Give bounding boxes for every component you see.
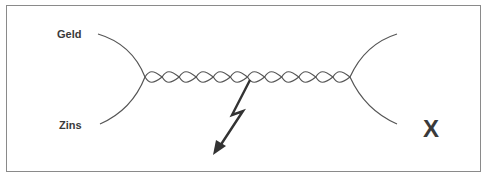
left-fork-lower-strand bbox=[100, 77, 145, 124]
label-zins: Zins bbox=[59, 119, 82, 131]
right-fork-lower-strand bbox=[350, 77, 397, 124]
lightning-bolt-icon bbox=[213, 80, 250, 155]
right-fork-upper-strand bbox=[350, 34, 397, 77]
left-fork-upper-strand bbox=[98, 34, 145, 77]
diagram-canvas bbox=[0, 0, 490, 178]
label-geld: Geld bbox=[57, 28, 81, 40]
twisted-helix bbox=[145, 72, 350, 83]
x-mark: X bbox=[423, 115, 439, 143]
